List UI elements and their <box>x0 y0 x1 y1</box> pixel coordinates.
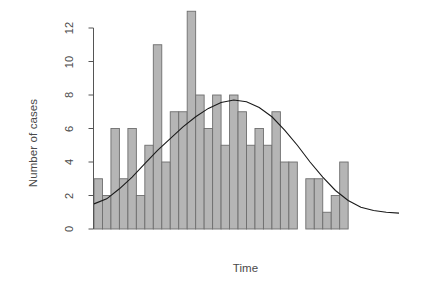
histogram-bar <box>280 162 288 229</box>
y-axis-tick-label: 8 <box>62 84 76 106</box>
histogram-bar <box>111 129 119 230</box>
bars-group <box>94 11 348 229</box>
histogram-bar <box>331 196 339 230</box>
histogram-bar <box>247 145 255 229</box>
histogram-bar <box>323 212 331 229</box>
histogram-bar <box>230 95 238 229</box>
histogram-bar <box>204 129 212 230</box>
y-axis-tick-label: 12 <box>62 17 76 39</box>
histogram-bar <box>272 112 280 229</box>
y-axis-tick-label: 0 <box>62 218 76 240</box>
histogram-bar <box>119 179 127 229</box>
histogram-bar <box>136 196 144 230</box>
y-axis-tick-label: 10 <box>62 51 76 73</box>
histogram-bar <box>145 145 153 229</box>
plot-area <box>0 0 434 286</box>
histogram-bar <box>263 145 271 229</box>
histogram-bar <box>306 179 314 229</box>
y-axis-tick-label: 6 <box>62 118 76 140</box>
y-axis-ticks <box>89 28 94 229</box>
y-axis-tick-label: 4 <box>62 151 76 173</box>
histogram-bar <box>153 45 161 229</box>
histogram-bar <box>128 129 136 230</box>
histogram-bar <box>255 129 263 230</box>
histogram-bar <box>238 112 246 229</box>
histogram-bar <box>221 145 229 229</box>
chart-figure: Number of cases Time 024681012 <box>0 0 434 286</box>
histogram-bar <box>170 112 178 229</box>
histogram-bar <box>289 162 297 229</box>
histogram-bar <box>162 162 170 229</box>
histogram-bar <box>196 95 204 229</box>
histogram-bar <box>213 95 221 229</box>
y-axis <box>89 28 94 229</box>
y-axis-tick-label: 2 <box>62 185 76 207</box>
histogram-bar <box>314 179 322 229</box>
